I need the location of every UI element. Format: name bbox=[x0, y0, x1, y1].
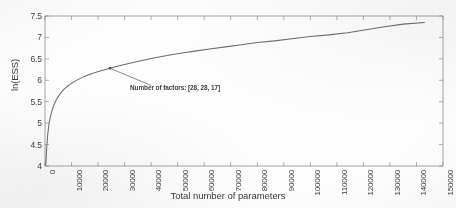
plot-area: 44.555.566.577.5 01000020000300004000050… bbox=[45, 16, 443, 166]
data-curve bbox=[46, 22, 425, 165]
y-tick-label: 4.5 bbox=[30, 140, 45, 150]
annotation-point-marker bbox=[109, 67, 112, 70]
y-tick-label: 4 bbox=[37, 161, 45, 171]
y-tick-label: 6.5 bbox=[30, 54, 45, 64]
y-tick-label: 5 bbox=[37, 118, 45, 128]
x-tick-label: 50000 bbox=[181, 170, 190, 191]
y-axis-title: ln(ESS) bbox=[9, 59, 20, 91]
annotation-leader bbox=[109, 67, 151, 85]
x-tick-label: 30000 bbox=[128, 170, 137, 191]
annotation-line bbox=[110, 68, 151, 85]
x-tick-label: 10000 bbox=[75, 170, 84, 191]
chart-svg bbox=[45, 16, 443, 166]
axis-ticks bbox=[45, 16, 443, 166]
x-tick-label: 20000 bbox=[101, 170, 110, 191]
x-tick-label: 40000 bbox=[154, 170, 163, 191]
y-tick-label: 6 bbox=[37, 75, 45, 85]
x-tick-label: 70000 bbox=[234, 170, 243, 191]
y-tick-label: 7.5 bbox=[30, 11, 45, 21]
x-tick-label: 0 bbox=[48, 170, 57, 174]
figure-canvas: ln(ESS) 44.555.566.577.5 010000200003000… bbox=[0, 0, 456, 208]
x-tick-label: 90000 bbox=[287, 170, 296, 191]
curve-annotation-label: Number of factors: [28, 28, 17] bbox=[130, 84, 220, 91]
x-axis-title: Total number of parameters bbox=[0, 190, 456, 201]
y-tick-label: 5.5 bbox=[30, 97, 45, 107]
y-tick-label: 7 bbox=[37, 32, 45, 42]
axes-frame bbox=[45, 16, 443, 166]
x-tick-label: 60000 bbox=[207, 170, 216, 191]
x-tick-label: 80000 bbox=[260, 170, 269, 191]
